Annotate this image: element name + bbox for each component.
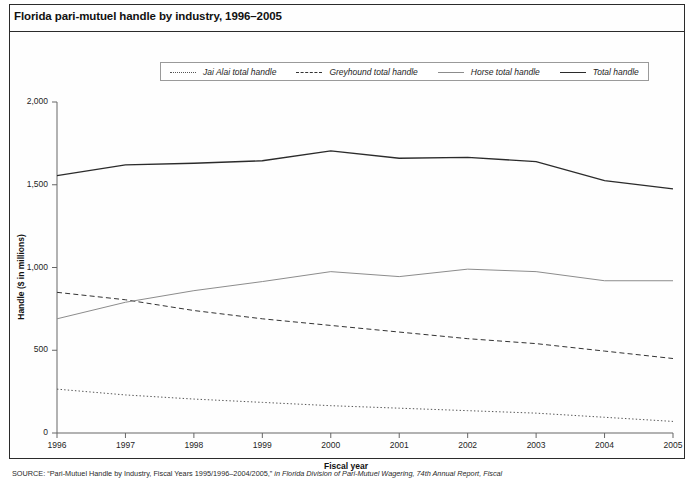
x-axis-tick-label: 1998 [171, 440, 217, 450]
legend-item-total: Total handle [560, 67, 639, 77]
y-axis-tick-label: 1,000 [4, 262, 48, 272]
source-note: SOURCE: “Pari-Mutuel Handle by Industry,… [12, 469, 688, 478]
x-axis-tick-label: 2004 [582, 440, 628, 450]
legend-item-jai-alai: Jai Alai total handle [170, 67, 276, 77]
legend-item-horse: Horse total handle [438, 67, 540, 77]
x-axis-tick-label: 2001 [376, 440, 422, 450]
chart-legend: Jai Alai total handle Greyhound total ha… [160, 62, 649, 81]
source-rest: in Florida Division of Pari-Mutuel Wager… [274, 469, 502, 478]
legend-item-greyhound: Greyhound total handle [296, 67, 417, 77]
legend-label: Horse total handle [471, 67, 540, 77]
x-axis-tick-label: 2003 [513, 440, 559, 450]
x-axis-tick-label: 2005 [650, 440, 692, 450]
page-title: Florida pari-mutuel handle by industry, … [14, 10, 282, 22]
y-axis-tick-label: 2,000 [4, 96, 48, 106]
x-axis-tick-label: 1999 [239, 440, 285, 450]
source-lead: SOURCE: [12, 469, 45, 478]
legend-label: Greyhound total handle [329, 67, 417, 77]
dashed-line-key-icon [296, 68, 322, 76]
x-axis-tick-label: 1997 [102, 440, 148, 450]
legend-label: Total handle [593, 67, 639, 77]
y-axis-tick-label: 1,500 [4, 179, 48, 189]
y-axis-tick-label: 0 [4, 427, 48, 437]
x-axis-tick-label: 2000 [308, 440, 354, 450]
thick-solid-line-key-icon [560, 68, 586, 76]
y-axis-tick-label: 500 [4, 344, 48, 354]
y-axis-label: Handle ($ in millions) [16, 212, 26, 342]
thin-solid-line-key-icon [438, 68, 464, 76]
x-axis-tick-label: 2002 [445, 440, 491, 450]
source-quoted: “Pari-Mutuel Handle by Industry, Fiscal … [47, 469, 272, 478]
x-axis-tick-label: 1996 [34, 440, 80, 450]
dotted-line-key-icon [170, 68, 196, 76]
title-divider [9, 31, 685, 32]
legend-label: Jai Alai total handle [203, 67, 276, 77]
